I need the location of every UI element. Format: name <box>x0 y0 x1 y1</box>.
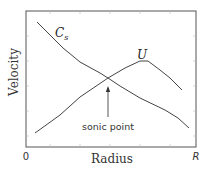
x-tick-zero: 0 <box>23 151 29 162</box>
x-tick-r: R <box>193 151 200 162</box>
chart-canvas: Cs U sonic point 0 R Radius Velocity <box>0 0 210 169</box>
u-label: U <box>137 48 148 62</box>
sonic-point-arrow-icon <box>106 86 110 117</box>
sonic-point-label: sonic point <box>82 121 134 132</box>
x-axis-title: Radius <box>91 152 133 166</box>
y-axis-title: Velocity <box>7 48 21 97</box>
cs-label: Cs <box>55 26 68 42</box>
